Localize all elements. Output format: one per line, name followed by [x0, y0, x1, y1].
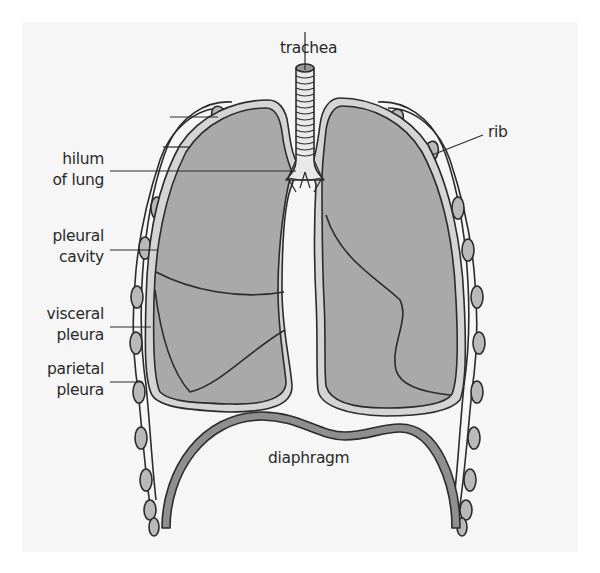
label-parietal-pleura: parietal pleura [40, 359, 104, 401]
label-hilum-line1: hilum [40, 149, 104, 170]
label-visceral-pleura: visceral pleura [40, 304, 104, 346]
left-lung [154, 108, 292, 404]
trachea [286, 64, 324, 192]
label-parietal-pleura-line2: pleura [40, 380, 104, 401]
label-diaphragm: diaphragm [268, 448, 349, 469]
label-trachea: trachea [280, 38, 337, 59]
label-visceral-pleura-line1: visceral [40, 304, 104, 325]
label-hilum-of-lung: hilum of lung [40, 149, 104, 191]
label-pleural-cavity-line1: pleural [40, 226, 104, 247]
diaphragm [162, 412, 460, 528]
label-visceral-pleura-line2: pleura [40, 325, 104, 346]
label-parietal-pleura-line1: parietal [40, 359, 104, 380]
label-pleural-cavity-line2: cavity [40, 247, 104, 268]
label-pleural-cavity: pleural cavity [40, 226, 104, 268]
label-hilum-line2: of lung [40, 170, 104, 191]
lung-diagram [0, 0, 600, 573]
label-rib: rib [488, 122, 508, 143]
